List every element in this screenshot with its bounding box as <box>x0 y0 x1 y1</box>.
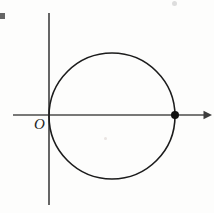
scan-speck-center <box>104 137 107 140</box>
coordinate-diagram-canvas <box>0 0 214 213</box>
scan-speck-left <box>0 13 5 19</box>
figure-container: O <box>0 0 214 213</box>
scan-speck-top-right <box>172 1 177 6</box>
origin-label: O <box>34 117 45 132</box>
circle-shape <box>49 53 175 179</box>
x-axis-arrowhead <box>204 111 213 119</box>
x-axis-intersection-point <box>171 111 179 119</box>
